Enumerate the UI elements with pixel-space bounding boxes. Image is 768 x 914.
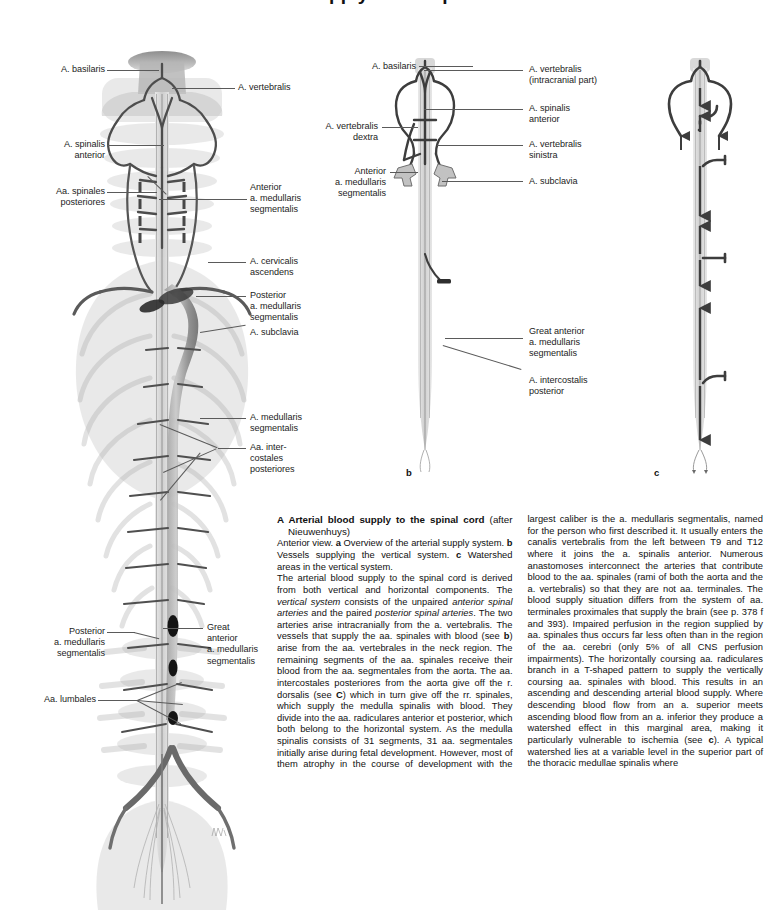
caption-overview-b: Vessels supplying the vertical system.: [277, 550, 456, 560]
leader-a-medullaris-segmentalis-a: [200, 418, 246, 419]
label-aa-spinales-posteriores: Aa. spinales posteriores: [0, 186, 105, 208]
leader-b-great-anterior: [445, 338, 523, 339]
label-great-anterior-a-medullaris-segmentalis-a: Great anterior a. medullaris segmentalis: [207, 622, 279, 667]
figure-c-illustration: [665, 58, 735, 478]
leader-posterior-a-medullaris-a: [196, 296, 246, 297]
leader-a-basilaris: [107, 70, 159, 71]
label-b-anterior-a-medullaris-segmentalis: Anterior a. medullaris segmentalis: [310, 166, 386, 200]
caption-title: A Arterial blood supply to the spinal co…: [277, 514, 513, 538]
caption-body-segment-9: C: [336, 690, 343, 700]
label-posterior-a-medullaris-segmentalis-a: Posterior a. medullaris segmentalis: [2, 626, 105, 660]
label-b-a-vertebralis-dextra: A. vertebralis dextra: [310, 121, 378, 143]
label-a-medullaris-segmentalis-a: A. medullaris segmentalis: [250, 412, 360, 434]
leader-a-vertebralis-a: [172, 88, 235, 89]
leader-b-a-subclavia: [442, 181, 523, 182]
page-heading: Arterial supply of the spinal cord: [0, 0, 768, 5]
leader-aa-intercostales: [218, 448, 246, 449]
label-posterior-a-medullaris-segmentalis-a-right: Posterior a. medullaris segmentalis: [250, 290, 360, 324]
caption-body-segment-2: consists of the unpaired: [340, 597, 452, 607]
leader-b-a-vertebralis-sinistra: [437, 145, 523, 146]
leader-aa-spinales-posteriores: [107, 192, 157, 193]
leader-b-a-vertebralis-dextra: [382, 127, 418, 128]
caption-anterior-view: Anterior view.: [277, 538, 336, 548]
leader-a-spinalis-anterior: [107, 145, 164, 146]
label-b-a-basilaris: A. basilaris: [340, 61, 416, 72]
label-a-spinalis-anterior: A. spinalis anterior: [2, 139, 105, 161]
leader-posterior-a-medullaris: [107, 632, 135, 633]
figure-caption-text: A Arterial blood supply to the spinal co…: [277, 514, 763, 914]
caption-title-line2: cord: [463, 514, 484, 525]
label-a-vertebralis-a: A. vertebralis: [238, 82, 348, 93]
figure-letter-c: c: [654, 467, 659, 478]
figure-a-illustration: [60, 48, 285, 914]
leader-a-cervicalis-ascendens: [208, 262, 246, 263]
label-a-cervicalis-ascendens: A. cervicalis ascendens: [250, 256, 360, 278]
caption-body-segment-1: vertical system: [277, 597, 340, 607]
caption-body-segment-0: The arterial blood supply to the spinal …: [277, 573, 513, 595]
label-a-basilaris: A. basilaris: [2, 64, 105, 75]
leader-b-a-spinalis-anterior: [424, 109, 523, 110]
figure-letter-b: b: [406, 467, 412, 478]
label-b-a-intercostalis-posterior: A. intercostalis posterior: [529, 375, 649, 397]
leader-b-a-basilaris: [419, 66, 473, 67]
label-aa-lumbales: Aa. lumbales: [2, 694, 96, 705]
leader-b-anterior-a-medullaris: [390, 172, 418, 173]
ref-b: b: [507, 538, 513, 548]
label-b-a-vertebralis-sinistra: A. vertebralis sinistra: [529, 139, 649, 161]
leader-great-anterior-a: [163, 628, 203, 629]
label-b-a-subclavia: A. subclavia: [529, 176, 649, 187]
caption-title-letter: A: [277, 514, 284, 525]
caption-body-segment-5: posterior spinal arteries: [375, 608, 473, 618]
label-b-a-spinalis-anterior: A. spinalis anterior: [529, 103, 649, 125]
leader-anterior-a-medullaris-a: [159, 199, 247, 200]
label-b-a-vertebralis-intracranial: A. vertebralis (intracranial part): [529, 64, 649, 86]
caption-title-line1: Arterial blood supply to the spinal: [288, 514, 458, 525]
figure-b-illustration: [390, 58, 460, 478]
leader-b-a-vertebralis-intracranial: [424, 70, 523, 71]
caption-overview-a: Overview of the arterial supply system.: [341, 538, 507, 548]
caption-body-segment-4: and the paired: [308, 608, 375, 618]
label-aa-intercostales-posteriores: Aa. inter- costales posteriores: [250, 442, 360, 476]
leader-aa-lumbales: [98, 700, 138, 701]
label-b-great-anterior-a-medullaris-segmentalis: Great anterior a. medullaris segmentalis: [529, 326, 649, 360]
label-a-subclavia-a: A. subclavia: [250, 327, 360, 338]
caption-overview: Anterior view. a Overview of the arteria…: [277, 538, 513, 573]
